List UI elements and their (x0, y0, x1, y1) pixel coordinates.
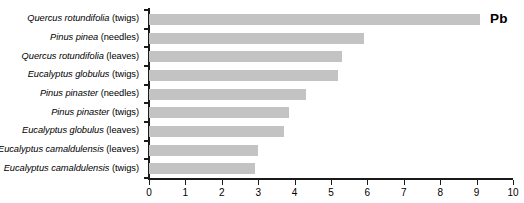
bar (149, 163, 255, 174)
x-axis-tick-label: 3 (255, 186, 261, 200)
x-axis-tick (367, 180, 368, 185)
plot-area: 012345678910 (149, 10, 513, 178)
bar (149, 89, 306, 100)
x-axis-tick-label: 6 (365, 186, 371, 200)
x-axis-tick (440, 180, 441, 185)
x-axis-tick-labels: 012345678910 (149, 186, 513, 202)
category-tissue-name: (needles) (101, 89, 139, 99)
bar-row (149, 85, 513, 104)
x-axis-tick-label: 9 (474, 186, 480, 200)
category-species-name: Quercus rotundifolia (22, 52, 104, 62)
x-axis-tick-label: 7 (401, 186, 407, 200)
bar-row (149, 47, 513, 66)
bar (149, 14, 480, 25)
x-axis-tick (185, 180, 186, 185)
category-label: Quercus rotundifolia (twigs) (0, 10, 144, 29)
x-axis-tick-label: 2 (219, 186, 225, 200)
category-tissue-name: (twigs) (112, 164, 139, 174)
category-label: Eucalyptus globulus (twigs) (0, 66, 144, 85)
x-axis-tick (295, 180, 296, 185)
bar (149, 33, 364, 44)
bar (149, 70, 338, 81)
category-tissue-name: (twigs) (112, 70, 139, 80)
bar (149, 145, 258, 156)
x-axis-tick-label: 0 (146, 186, 152, 200)
category-label: Quercus rotundifolia (leaves) (0, 47, 144, 66)
category-species-name: Eucalyptus camaldulensis (4, 164, 110, 174)
y-axis-category-labels: Quercus rotundifolia (twigs)Pinus pinea … (0, 10, 144, 178)
category-species-name: Pinus pinaster (40, 89, 98, 99)
series-annotation-label: Pb (490, 11, 508, 26)
x-axis-tick-label: 1 (183, 186, 189, 200)
category-label: Eucalyptus camaldulensis (twigs) (0, 159, 144, 178)
category-species-name: Eucalyptus globulus (28, 70, 110, 80)
bar-series (149, 10, 513, 178)
category-species-name: Pinus pinaster (51, 108, 109, 118)
x-axis-tick-label: 5 (328, 186, 334, 200)
category-species-name: Eucalyptus camaldulensis (0, 145, 104, 155)
category-label: Eucalyptus camaldulensis (leaves) (0, 141, 144, 160)
x-axis-tick-label: 4 (292, 186, 298, 200)
bar-row (149, 141, 513, 160)
bar-row (149, 66, 513, 85)
x-axis-tick (404, 180, 405, 185)
x-axis-tick-label: 8 (437, 186, 443, 200)
category-species-name: Eucalyptus globulus (22, 126, 104, 136)
x-axis-tick-label: 10 (507, 186, 518, 200)
bar-row (149, 103, 513, 122)
bar-row (149, 122, 513, 141)
x-axis-tick (258, 180, 259, 185)
x-axis-tick (513, 180, 514, 185)
bar-row (149, 29, 513, 48)
x-axis-tick (222, 180, 223, 185)
category-tissue-name: (leaves) (106, 52, 139, 62)
category-species-name: Quercus rotundifolia (27, 14, 109, 24)
bar (149, 126, 284, 137)
bar-chart: Quercus rotundifolia (twigs)Pinus pinea … (0, 0, 524, 203)
bar (149, 107, 289, 118)
category-label: Eucalyptus globulus (leaves) (0, 122, 144, 141)
bar-row (149, 10, 513, 29)
bar (149, 51, 342, 62)
category-species-name: Pinus pinea (50, 33, 98, 43)
category-tissue-name: (twigs) (112, 108, 139, 118)
x-axis-tick (331, 180, 332, 185)
category-label: Pinus pinaster (needles) (0, 85, 144, 104)
bar-row (149, 159, 513, 178)
category-tissue-name: (leaves) (106, 145, 139, 155)
category-label: Pinus pinea (needles) (0, 29, 144, 48)
category-tissue-name: (needles) (101, 33, 139, 43)
category-tissue-name: (leaves) (106, 126, 139, 136)
x-axis-tick (149, 180, 150, 185)
x-axis-tick (477, 180, 478, 185)
category-label: Pinus pinaster (twigs) (0, 103, 144, 122)
category-tissue-name: (twigs) (112, 14, 139, 24)
